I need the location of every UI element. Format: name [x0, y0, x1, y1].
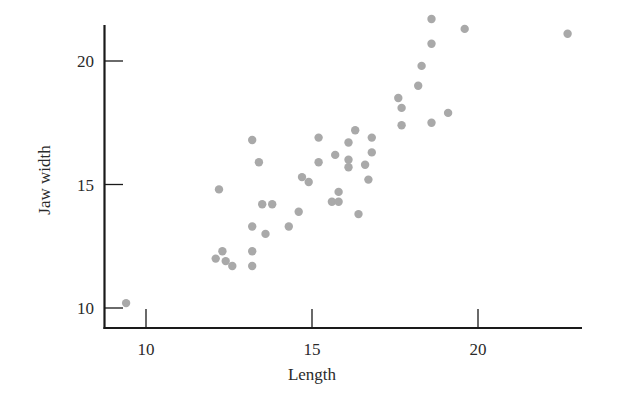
data-point: [361, 161, 369, 169]
x-tick-label: 20: [470, 340, 487, 359]
data-point: [268, 200, 276, 208]
data-point: [314, 133, 322, 141]
data-point: [248, 136, 256, 144]
data-point: [212, 254, 220, 262]
x-tick-label: 10: [138, 340, 155, 359]
data-point: [248, 222, 256, 230]
data-point: [261, 230, 269, 238]
data-point: [285, 222, 293, 230]
data-point: [461, 25, 469, 33]
data-point: [248, 262, 256, 270]
data-point: [334, 198, 342, 206]
data-point: [397, 104, 405, 112]
data-point: [331, 151, 339, 159]
data-point: [368, 148, 376, 156]
data-point: [314, 158, 322, 166]
data-point: [354, 210, 362, 218]
data-point: [563, 30, 571, 38]
data-point: [351, 126, 359, 134]
data-point: [298, 173, 306, 181]
y-axis-ticks: 101520: [77, 52, 123, 318]
data-point: [364, 175, 372, 183]
data-point: [215, 185, 223, 193]
data-point: [228, 262, 236, 270]
data-point: [255, 158, 263, 166]
data-point: [344, 138, 352, 146]
x-axis-title: Length: [288, 365, 337, 384]
data-point: [344, 156, 352, 164]
data-point: [394, 94, 402, 102]
data-point: [248, 247, 256, 255]
data-point: [305, 178, 313, 186]
y-tick-label: 15: [77, 176, 94, 195]
data-point: [344, 163, 352, 171]
data-point: [427, 40, 435, 48]
data-point: [414, 82, 422, 90]
data-point: [122, 299, 130, 307]
data-point: [368, 133, 376, 141]
y-axis-title: Jaw width: [35, 145, 54, 215]
x-axis-ticks: 101520: [138, 309, 487, 359]
data-point: [417, 62, 425, 70]
data-point: [427, 15, 435, 23]
data-point: [444, 109, 452, 117]
data-points: [122, 15, 572, 308]
data-point: [397, 121, 405, 129]
data-point: [334, 188, 342, 196]
data-point: [258, 200, 266, 208]
x-tick-label: 15: [304, 340, 321, 359]
y-tick-label: 10: [77, 299, 94, 318]
data-point: [295, 208, 303, 216]
data-point: [427, 119, 435, 127]
y-tick-label: 20: [77, 52, 94, 71]
scatter-chart: 101520 101520 Length Jaw width: [0, 0, 617, 407]
data-point: [218, 247, 226, 255]
